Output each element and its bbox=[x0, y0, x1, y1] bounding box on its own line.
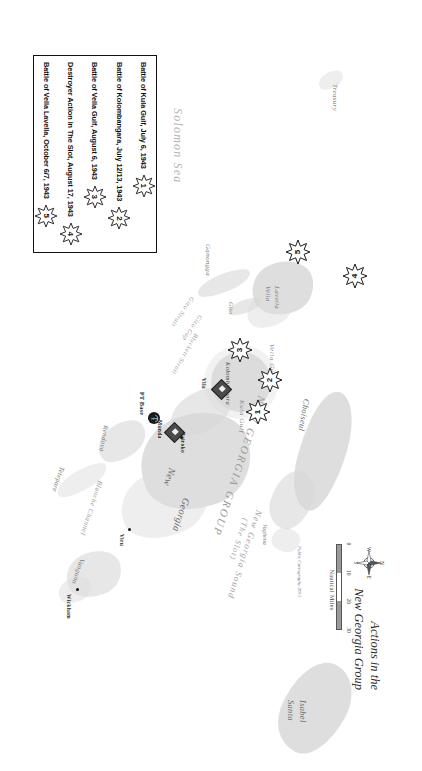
title-scale-rotated: Actions in the New Georgia Group N E S W bbox=[282, 540, 386, 692]
label-lavella: Lavella bbox=[273, 286, 281, 309]
base-marker-pt-base[interactable]: ⚓ bbox=[148, 412, 160, 424]
label-santa: Santa bbox=[286, 700, 296, 721]
scale-unit-label: Nautical Miles bbox=[329, 544, 335, 636]
legend-label: Battle of Vella Gulf, August 6, 1943 bbox=[91, 62, 100, 180]
label-isabel: Isabel bbox=[298, 700, 308, 723]
scale-bar-group: 0 10 20 30 Nautical Miles bbox=[329, 544, 352, 636]
label-treasury: Treasury bbox=[331, 84, 339, 111]
legend-star-icon: 4 bbox=[60, 223, 82, 245]
legend-label: Battle of Kolombangara, July 12/13, 1943 bbox=[115, 62, 124, 201]
label-viru: Viru bbox=[119, 534, 125, 546]
legend-box: Battle of Kula Gulf, July 6, 1943 1 Batt… bbox=[33, 55, 157, 253]
anchor-icon: ⚓ bbox=[150, 414, 158, 423]
label-gizo: Gizo bbox=[228, 302, 234, 315]
battle-star-number: 5 bbox=[294, 250, 302, 254]
battle-star-5[interactable]: 5 bbox=[286, 240, 310, 264]
label-vaghena: Vaghena bbox=[262, 524, 268, 545]
legend-row-4[interactable]: Destroyer Action in The Slot, August 17,… bbox=[58, 62, 82, 246]
legend-star-icon: 5 bbox=[35, 205, 57, 227]
scale-tick-labels: 0 10 20 30 bbox=[342, 544, 352, 630]
scale-tick-30: 30 bbox=[346, 627, 352, 633]
map-title-line1: Actions in the bbox=[366, 588, 382, 690]
legend-star-icon: 2 bbox=[108, 207, 130, 229]
battle-star-number: 4 bbox=[351, 274, 359, 278]
label-solomon-sea: Solomon Sea bbox=[170, 108, 185, 184]
legend-star-number: 3 bbox=[91, 194, 100, 198]
legend-entries: Battle of Kula Gulf, July 6, 1943 1 Batt… bbox=[34, 56, 156, 252]
legend-label: Battle of Kula Gulf, July 6, 1943 bbox=[139, 62, 148, 169]
legend-row-1[interactable]: Battle of Kula Gulf, July 6, 1943 1 bbox=[132, 62, 156, 246]
legend-row-5[interactable]: Battle of Vella Lavella, October 6/7, 19… bbox=[34, 62, 58, 246]
compass-west-label: W bbox=[366, 547, 372, 552]
title-scale-block: Actions in the New Georgia Group N E S W bbox=[282, 540, 386, 692]
scale-bar bbox=[336, 544, 342, 630]
label-vila: Vila bbox=[201, 378, 207, 389]
battle-star-number: 3 bbox=[236, 348, 244, 352]
compass-rose: N E S W bbox=[354, 548, 384, 578]
legend-row-2[interactable]: Battle of Kolombangara, July 12/13, 1943… bbox=[107, 62, 131, 246]
label-kula-gulf: Kula Gulf bbox=[238, 400, 246, 433]
battle-star-number: 2 bbox=[266, 378, 274, 382]
map-title: Actions in the New Georgia Group bbox=[351, 588, 382, 690]
compass-north-label: N bbox=[379, 561, 385, 565]
compass-south-label: S bbox=[353, 562, 359, 565]
battle-star-3[interactable]: 3 bbox=[228, 338, 252, 362]
scale-tick-20: 20 bbox=[346, 598, 352, 604]
battle-star-number: 1 bbox=[254, 410, 262, 414]
battle-star-4[interactable]: 4 bbox=[343, 264, 367, 288]
label-vella: Vella bbox=[264, 286, 272, 302]
town-dot-viru bbox=[128, 528, 131, 531]
scale-tick-0: 0 bbox=[346, 543, 352, 546]
label-ganongga: Ganongga bbox=[204, 244, 212, 276]
battle-star-2[interactable]: 2 bbox=[258, 368, 282, 392]
map-title-line2: New Georgia Group bbox=[351, 588, 367, 690]
map-canvas: Solomon Sea New Georgia Sound (The Slot)… bbox=[0, 0, 422, 771]
legend-star-number: 5 bbox=[42, 213, 51, 217]
label-wickham: Wickham bbox=[66, 594, 72, 619]
legend-row-3[interactable]: Battle of Vella Gulf, August 6, 1943 3 bbox=[83, 62, 107, 246]
map-credit: Public Cartography 2015 bbox=[297, 546, 302, 597]
legend-label: Battle of Vella Lavella, October 6/7, 19… bbox=[42, 62, 51, 199]
battle-star-1[interactable]: 1 bbox=[246, 400, 270, 424]
legend-star-icon: 3 bbox=[84, 186, 106, 208]
compass-east-label: E bbox=[366, 576, 372, 579]
label-pt-base: PT Base bbox=[139, 392, 145, 415]
scale-tick-10: 10 bbox=[346, 570, 352, 576]
legend-label: Destroyer Action in The Slot, August 17,… bbox=[66, 62, 75, 217]
legend-star-number: 1 bbox=[139, 184, 148, 188]
legend-star-number: 4 bbox=[66, 231, 75, 235]
label-munda: Munda bbox=[157, 420, 163, 439]
legend-star-icon: 1 bbox=[133, 175, 155, 197]
legend-star-number: 2 bbox=[115, 216, 124, 220]
town-dot-wickham bbox=[76, 588, 79, 591]
